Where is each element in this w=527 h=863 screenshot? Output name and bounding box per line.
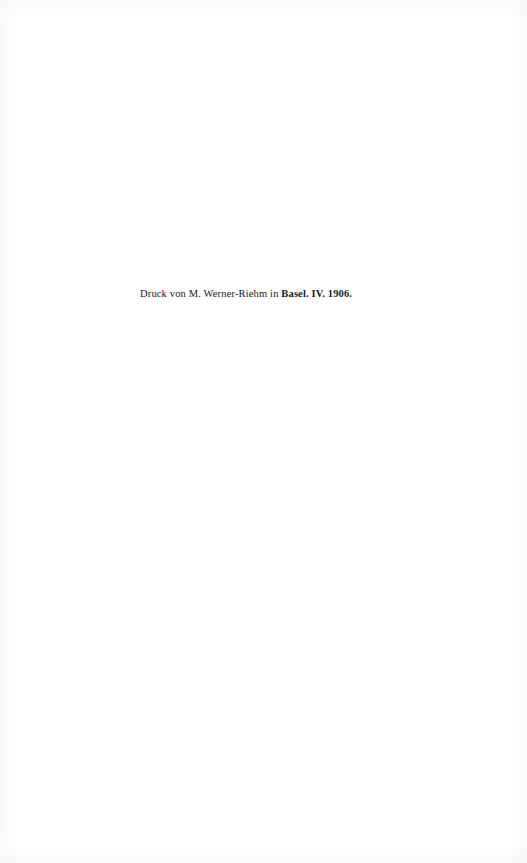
edition-date: IV. 1906. bbox=[312, 288, 353, 299]
printer-text: Druck von M. Werner-Riehm in bbox=[140, 288, 279, 299]
printing-place: Basel. bbox=[281, 288, 308, 299]
document-page: Druck von M. Werner-Riehm in Basel. IV. … bbox=[0, 0, 527, 863]
printer-imprint: Druck von M. Werner-Riehm in Basel. IV. … bbox=[140, 287, 345, 301]
